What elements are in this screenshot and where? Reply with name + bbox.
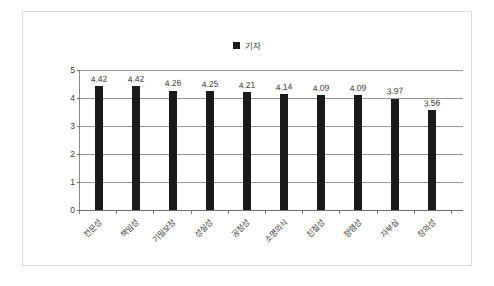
bar-value-label: 4.26	[164, 79, 181, 89]
bar-value-label: 3.97	[387, 87, 404, 97]
bar-value-label: 3.56	[424, 98, 441, 108]
bar-slot: 4.26	[154, 70, 191, 210]
x-axis-category-label: 창의성	[417, 219, 438, 240]
y-tick-label-1: 1	[70, 178, 75, 187]
bar[interactable]	[169, 91, 177, 210]
chart-container: 기자 012345 4.424.424.264.254.214.144.094.…	[22, 11, 472, 266]
bar-slot: 4.42	[117, 70, 154, 210]
bar-value-label: 4.14	[275, 82, 292, 92]
plot-area-wrapper: 012345 4.424.424.264.254.214.144.094.093…	[79, 70, 451, 210]
legend-swatch-icon	[233, 42, 240, 49]
bar[interactable]	[243, 92, 251, 210]
y-tick-label-4: 4	[70, 94, 75, 103]
bar-slot: 4.42	[80, 70, 117, 210]
x-axis-category-label: 소명의식	[264, 219, 290, 245]
x-tick	[302, 210, 303, 214]
bar-slot: 4.21	[228, 70, 265, 210]
chart-legend: 기자	[23, 39, 471, 51]
x-tick	[265, 210, 266, 214]
x-tick	[339, 210, 340, 214]
plot-area: 012345 4.424.424.264.254.214.144.094.093…	[79, 70, 451, 210]
bar-value-label: 4.25	[201, 79, 218, 89]
bar-value-label: 4.21	[238, 80, 255, 90]
x-label-slot: 기밀보장	[153, 215, 190, 275]
x-axis-category-label: 전문성	[83, 219, 104, 240]
y-tick-label-3: 3	[70, 122, 75, 131]
x-label-slot: 자부심	[377, 215, 414, 275]
x-axis-category-label: 청렴성	[343, 219, 364, 240]
bar-series-gija: 4.424.424.264.254.214.144.094.093.973.56	[80, 70, 451, 210]
x-tick	[228, 210, 229, 214]
x-label-slot: 창의성	[414, 215, 451, 275]
x-tick	[116, 210, 117, 214]
bar[interactable]	[132, 86, 140, 210]
bar[interactable]	[428, 110, 436, 210]
x-tick	[377, 210, 378, 214]
bar[interactable]	[317, 95, 325, 210]
x-axis-category-label: 기밀보장	[152, 219, 178, 245]
x-label-slot: 책임성	[116, 215, 153, 275]
y-tick-label-0: 0	[70, 206, 75, 215]
bar-slot: 3.56	[414, 70, 451, 210]
legend-label-gija: 기자	[245, 39, 261, 51]
y-tick-label-5: 5	[70, 66, 75, 75]
y-tick-label-2: 2	[70, 150, 75, 159]
x-tick	[451, 210, 452, 214]
x-label-slot: 청렴성	[339, 215, 376, 275]
bar-slot: 4.09	[340, 70, 377, 210]
x-axis-category-label: 친절성	[306, 219, 327, 240]
x-label-slot: 성실성	[191, 215, 228, 275]
x-tick	[414, 210, 415, 214]
x-tick	[191, 210, 192, 214]
bar-value-label: 4.42	[127, 74, 144, 84]
x-tick	[79, 210, 80, 214]
x-axis-category-label: 성실성	[194, 219, 215, 240]
bar-slot: 3.97	[377, 70, 414, 210]
screenshot-root: 기자 012345 4.424.424.264.254.214.144.094.…	[0, 0, 494, 286]
x-label-slot: 소명의식	[265, 215, 302, 275]
x-label-slot: 친절성	[302, 215, 339, 275]
bar-slot: 4.25	[191, 70, 228, 210]
bar-value-label: 4.09	[350, 83, 367, 93]
x-axis-category-label: 공정성	[231, 219, 252, 240]
bar-value-label: 4.09	[313, 83, 330, 93]
bar[interactable]	[95, 86, 103, 210]
bar[interactable]	[391, 99, 399, 210]
bar[interactable]	[206, 91, 214, 210]
bar[interactable]	[280, 94, 288, 210]
x-axis-labels: 전문성책임성기밀보장성실성공정성소명의식친절성청렴성자부심창의성	[79, 215, 451, 275]
bar[interactable]	[354, 95, 362, 210]
x-label-slot: 전문성	[79, 215, 116, 275]
x-axis-category-label: 자부심	[380, 219, 401, 240]
bar-slot: 4.09	[303, 70, 340, 210]
x-tick	[153, 210, 154, 214]
x-label-slot: 공정성	[228, 215, 265, 275]
x-axis-category-label: 책임성	[120, 219, 141, 240]
bar-value-label: 4.42	[90, 74, 107, 84]
bar-slot: 4.14	[265, 70, 302, 210]
